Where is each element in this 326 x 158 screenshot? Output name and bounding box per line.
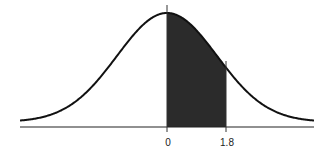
tick-label-upper: 1.8	[220, 137, 234, 148]
normal-curve-chart	[0, 0, 326, 158]
tick-label-zero: 0	[165, 137, 171, 148]
